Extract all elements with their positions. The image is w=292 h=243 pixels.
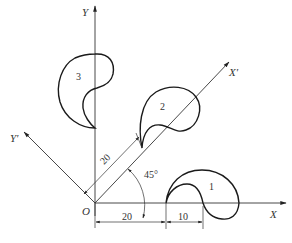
angle-label-45: 45° — [144, 169, 158, 180]
origin-label: O — [82, 205, 90, 217]
shape-1-outline — [166, 170, 239, 219]
y-prime-axis-label: Y′ — [10, 132, 19, 144]
dim-label-x-prime-offset: 20 — [98, 152, 113, 167]
shape-1-label: 1 — [209, 181, 214, 192]
shape-2-label: 2 — [160, 101, 165, 112]
shape-3-outline — [58, 54, 113, 128]
dim-label-origin-to-shape1: 20 — [122, 211, 132, 222]
x-prime-axis-label: X′ — [228, 66, 239, 78]
x-axis-label: X — [269, 208, 278, 220]
y-axis-label: Y — [82, 6, 90, 18]
dim-label-shape1-width: 10 — [178, 211, 188, 222]
y-prime-axis — [24, 132, 95, 203]
shape-3-label: 3 — [76, 71, 81, 82]
shape-2-outline — [140, 87, 199, 148]
coordinate-transform-diagram: Y X X′ Y′ O 3 2 1 20 45° 20 10 — [0, 0, 292, 243]
